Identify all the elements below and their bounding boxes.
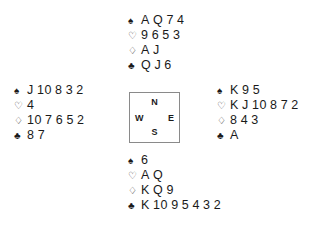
- hand-west-diamonds-row: ♢ 107652: [14, 113, 84, 128]
- spade-icon: ♠: [217, 83, 230, 98]
- compass-label-west: W: [135, 113, 144, 122]
- heart-icon: ♡: [14, 98, 27, 113]
- hand-east-hearts: KJ10872: [230, 98, 299, 113]
- hand-north-spades-row: ♠ AQ74: [128, 13, 185, 28]
- hand-east-diamonds-row: ♢ 843: [217, 113, 299, 128]
- hand-south: ♠ 6 ♡ AQ ♢ KQ9 ♣ K1095432: [128, 153, 221, 213]
- hand-west-clubs: 87: [27, 128, 45, 143]
- spade-icon: ♠: [14, 83, 27, 98]
- hand-north-clubs-row: ♣ QJ6: [128, 58, 185, 73]
- hand-west-clubs-row: ♣ 87: [14, 128, 84, 143]
- hand-west-spades: J10832: [27, 83, 84, 98]
- hand-east-spades: K95: [230, 83, 260, 98]
- hand-north-clubs: QJ6: [141, 58, 172, 73]
- heart-icon: ♡: [128, 168, 141, 183]
- diamond-icon: ♢: [128, 183, 141, 198]
- hand-north: ♠ AQ74 ♡ 9653 ♢ AJ ♣ QJ6: [128, 13, 185, 73]
- hand-south-clubs-row: ♣ K1095432: [128, 198, 221, 213]
- hand-east-spades-row: ♠ K95: [217, 83, 299, 98]
- hand-west-hearts: 4: [27, 98, 34, 113]
- hand-south-diamonds-row: ♢ KQ9: [128, 183, 221, 198]
- bridge-deal-diagram: ♠ AQ74 ♡ 9653 ♢ AJ ♣ QJ6 ♠ J10832 ♡ 4 ♢ …: [0, 0, 330, 227]
- hand-north-hearts-row: ♡ 9653: [128, 28, 185, 43]
- spade-icon: ♠: [128, 13, 141, 28]
- compass-label-north: N: [151, 98, 158, 107]
- club-icon: ♣: [128, 198, 141, 213]
- club-icon: ♣: [128, 58, 141, 73]
- heart-icon: ♡: [128, 28, 141, 43]
- hand-east-hearts-row: ♡ KJ10872: [217, 98, 299, 113]
- hand-south-diamonds: KQ9: [141, 183, 174, 198]
- hand-east-diamonds: 843: [230, 113, 259, 128]
- compass-box: N W E S: [129, 92, 180, 143]
- hand-south-spades: 6: [141, 153, 148, 168]
- hand-south-hearts-row: ♡ AQ: [128, 168, 221, 183]
- club-icon: ♣: [217, 128, 230, 143]
- compass-label-east: E: [168, 113, 174, 122]
- hand-south-clubs: K1095432: [141, 198, 221, 213]
- hand-west-diamonds: 107652: [27, 113, 84, 128]
- hand-west-hearts-row: ♡ 4: [14, 98, 84, 113]
- hand-east-clubs-row: ♣ A: [217, 128, 299, 143]
- club-icon: ♣: [14, 128, 27, 143]
- compass-label-south: S: [151, 128, 157, 137]
- hand-north-spades: AQ74: [141, 13, 185, 28]
- diamond-icon: ♢: [128, 43, 141, 58]
- hand-north-diamonds: AJ: [141, 43, 160, 58]
- hand-west-spades-row: ♠ J10832: [14, 83, 84, 98]
- spade-icon: ♠: [128, 153, 141, 168]
- hand-south-hearts: AQ: [141, 168, 163, 183]
- hand-east-clubs: A: [230, 128, 239, 143]
- hand-north-hearts: 9653: [141, 28, 180, 43]
- heart-icon: ♡: [217, 98, 230, 113]
- hand-west: ♠ J10832 ♡ 4 ♢ 107652 ♣ 87: [14, 83, 84, 143]
- hand-north-diamonds-row: ♢ AJ: [128, 43, 185, 58]
- hand-east: ♠ K95 ♡ KJ10872 ♢ 843 ♣ A: [217, 83, 299, 143]
- diamond-icon: ♢: [14, 113, 27, 128]
- diamond-icon: ♢: [217, 113, 230, 128]
- hand-south-spades-row: ♠ 6: [128, 153, 221, 168]
